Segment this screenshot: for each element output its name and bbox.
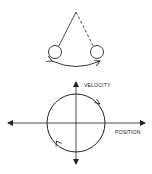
pendulum	[49, 12, 104, 67]
phase-plot: VELOCITY POSITION	[8, 82, 145, 164]
swing-arc-arrow	[52, 61, 100, 67]
position-axis-label: POSITION	[115, 129, 141, 135]
pendulum-phase-diagram: VELOCITY POSITION	[0, 0, 152, 174]
pendulum-string-dashed	[76, 12, 94, 47]
pendulum-bob-left	[49, 46, 62, 59]
velocity-axis-label: VELOCITY	[84, 82, 111, 88]
orbit-arrow-lower-left	[56, 141, 62, 147]
pendulum-bob-right	[91, 46, 104, 59]
pendulum-string-solid	[59, 12, 77, 47]
